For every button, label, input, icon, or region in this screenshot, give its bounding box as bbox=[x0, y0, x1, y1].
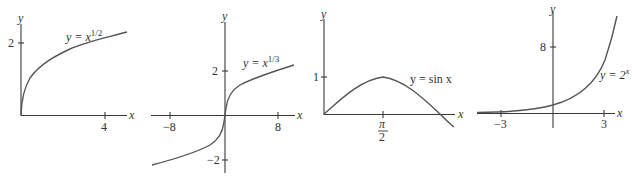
panel-cbrt: y x 2 −2 −8 8 y = x1/3 bbox=[151, 9, 303, 173]
x-tick-label-pos: 8 bbox=[275, 120, 281, 134]
y-axis-label: y bbox=[221, 9, 228, 23]
x-tick-label-neg: −3 bbox=[494, 117, 507, 131]
y-axis-label: y bbox=[17, 11, 24, 25]
x-tick-label-neg: −8 bbox=[163, 120, 176, 134]
x-axis-label: x bbox=[128, 108, 135, 122]
y-tick-label-pos: 2 bbox=[212, 64, 218, 78]
curve-label: y = x1/2 bbox=[65, 28, 102, 44]
pi-numerator: π bbox=[379, 117, 386, 131]
y-tick-label-neg: −2 bbox=[207, 153, 220, 167]
y-axis-label: y bbox=[320, 7, 327, 21]
x-axis-label: x bbox=[296, 108, 303, 122]
curve-exp2 bbox=[477, 16, 617, 113]
x-tick-label-pos: 3 bbox=[601, 117, 607, 131]
panel-exp2: y x 8 −3 3 y = 2x bbox=[477, 2, 629, 131]
y-tick-label: 1 bbox=[313, 70, 319, 84]
curve-label: y = x1/3 bbox=[242, 54, 280, 70]
function-graphs: y x 2 4 y = x1/2 y x 2 −2 −8 8 y = x1/3 … bbox=[0, 0, 632, 177]
curve-label: y = 2x bbox=[599, 66, 629, 82]
panel-sin: y x 1 π 2 y = sin x bbox=[313, 7, 464, 144]
curve-sqrt bbox=[21, 32, 127, 115]
y-tick-label: 8 bbox=[540, 40, 546, 54]
x-axis-label: x bbox=[616, 106, 623, 120]
curve-label: y = sin x bbox=[410, 72, 452, 86]
x-axis-label: x bbox=[457, 107, 464, 121]
y-tick-label: 2 bbox=[8, 36, 14, 50]
pi-denominator: 2 bbox=[379, 130, 385, 144]
panel-sqrt: y x 2 4 y = x1/2 bbox=[8, 11, 135, 134]
y-axis-label: y bbox=[549, 2, 556, 16]
x-tick-label: 4 bbox=[101, 120, 107, 134]
x-tick-label-pi-over-2: π 2 bbox=[378, 117, 388, 144]
